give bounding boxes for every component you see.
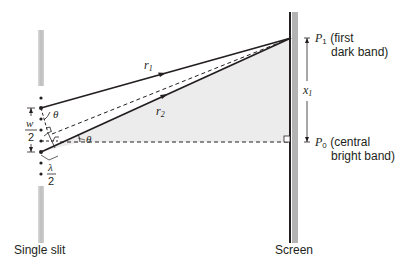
label-theta-center: θ (86, 133, 91, 146)
label-lambda-numerator: λ (48, 161, 53, 174)
slit-barrier-top (38, 30, 44, 86)
label-w-numerator: w (26, 117, 33, 130)
w-arrow-up (29, 108, 33, 113)
w-arrow-down (29, 147, 33, 152)
label-r1: r1 (144, 59, 153, 75)
right-angle-mark-p0 (284, 136, 290, 142)
path-difference-ticks (44, 131, 52, 136)
ray-r1-arrow (158, 73, 166, 78)
theta-arc-slit (44, 112, 50, 120)
screen-gray (292, 12, 298, 243)
label-screen: Screen (275, 244, 313, 257)
label-single-slit: Single slit (14, 244, 65, 257)
label-r2: r2 (156, 105, 165, 121)
label-w-denominator: 2 (28, 131, 34, 144)
label-lambda-denominator: 2 (48, 175, 54, 188)
label-p0-desc: bright band) (331, 150, 395, 163)
right-angle-mark-path (53, 137, 59, 141)
lambda-bracket (41, 155, 58, 160)
label-theta-slit: θ (53, 108, 58, 121)
label-p1-desc: dark band) (331, 46, 388, 59)
x1-arrow-up (305, 38, 309, 43)
label-x1: x1 (303, 84, 312, 100)
slit-barrier-bottom (38, 186, 44, 243)
x1-arrow-down (305, 137, 309, 142)
